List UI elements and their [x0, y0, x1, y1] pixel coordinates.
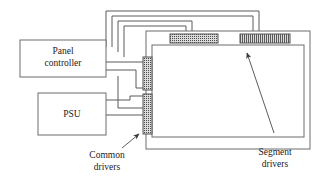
panel-inner-screen — [152, 45, 304, 137]
wire-controller-to-common-upper-b — [106, 70, 143, 88]
psu-block[interactable]: PSU — [38, 93, 106, 135]
wire-psu-to-common-lower — [106, 96, 143, 100]
panel-controller-block[interactable]: Panel controller — [20, 40, 106, 77]
segment-driver-right[interactable] — [240, 34, 290, 43]
common-driver-lower[interactable] — [143, 94, 152, 134]
common-drivers-leader-line — [122, 134, 139, 148]
segment-drivers-label-line2: drivers — [262, 159, 289, 169]
diagram-canvas: Panel controller PSU Common drivers Segm… — [0, 0, 315, 179]
wire-controller-drop-to-psu-rail — [118, 76, 143, 108]
block-diagram: Panel controller PSU Common drivers Segm… — [0, 0, 315, 179]
common-drivers-callout: Common drivers — [89, 134, 139, 172]
segment-drivers-label-line1: Segment — [258, 147, 292, 157]
psu-label: PSU — [63, 109, 81, 119]
common-driver-upper[interactable] — [143, 57, 152, 90]
common-driver-group — [143, 57, 152, 134]
panel-controller-label-line2: controller — [45, 58, 83, 68]
common-drivers-label-line1: Common — [89, 150, 125, 160]
common-drivers-label-line2: drivers — [94, 162, 121, 172]
display-panel-assembly — [146, 31, 310, 149]
segment-driver-left[interactable] — [170, 34, 218, 43]
panel-controller-label-line1: Panel — [52, 46, 73, 56]
